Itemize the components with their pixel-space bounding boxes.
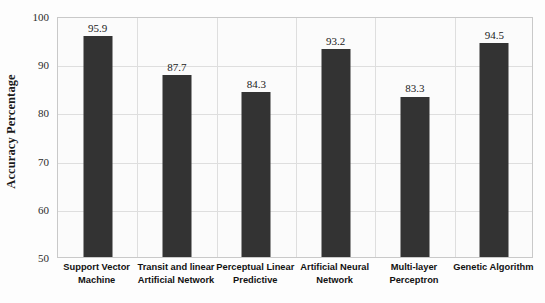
bar[interactable] [400, 97, 429, 258]
x-axis-label-1: Support VectorMachine [53, 261, 140, 286]
x-axis-label-line: Multi-layer [370, 261, 457, 274]
bar-chart: Accuracy Percentage 5060708090100 95.987… [0, 0, 545, 303]
y-axis-tick-90: 90 [38, 59, 49, 71]
bar[interactable] [162, 75, 191, 257]
y-axis-title: Accuracy Percentage [0, 0, 22, 262]
x-axis-label-3: Perceptual LinearPredictive [212, 261, 299, 286]
y-axis-tick-60: 60 [38, 204, 49, 216]
bar-value-label: 95.9 [88, 22, 107, 34]
x-axis-label-line: Network [291, 274, 378, 287]
x-axis-label-6: Genetic Algorithm [450, 261, 537, 274]
bar-slot: 84.3 [217, 18, 296, 257]
x-axis-label-line: Support Vector [53, 261, 140, 274]
x-axis-label-4: Artificial NeuralNetwork [291, 261, 378, 286]
x-axis-label-line: Perceptron [370, 274, 457, 287]
x-axis-label-line: Transit and linear [132, 261, 219, 274]
bar[interactable] [242, 92, 271, 257]
x-axis-label-line: Genetic Algorithm [450, 261, 537, 274]
x-axis-label-2: Transit and linearArtificial Network [132, 261, 219, 286]
y-axis-tick-100: 100 [33, 11, 50, 23]
bar-slot: 94.5 [455, 18, 534, 257]
bar-slot: 83.3 [375, 18, 454, 257]
bar-value-label: 87.7 [167, 61, 186, 73]
bar[interactable] [83, 36, 112, 257]
plot-area: 95.987.784.393.283.394.5 [57, 17, 533, 258]
bar-value-label: 94.5 [485, 29, 504, 41]
x-axis-label-5: Multi-layerPerceptron [370, 261, 457, 286]
x-axis-label-line: Artificial Network [132, 274, 219, 287]
bar-value-label: 93.2 [326, 35, 345, 47]
y-axis-tick-50: 50 [38, 252, 49, 264]
bar[interactable] [321, 49, 350, 257]
x-axis-label-line: Predictive [212, 274, 299, 287]
y-axis-tick-70: 70 [38, 156, 49, 168]
bar-slot: 87.7 [137, 18, 216, 257]
x-axis-label-line: Machine [53, 274, 140, 287]
x-axis-category-labels: Support VectorMachineTransit and linearA… [57, 261, 533, 301]
bar-slot: 95.9 [58, 18, 137, 257]
x-axis-label-line: Artificial Neural [291, 261, 378, 274]
bar-value-label: 84.3 [247, 78, 266, 90]
bar-value-label: 83.3 [405, 82, 424, 94]
y-axis-title-text: Accuracy Percentage [4, 74, 19, 188]
x-axis-label-line: Perceptual Linear [212, 261, 299, 274]
y-axis-tick-80: 80 [38, 107, 49, 119]
bar-slot: 93.2 [296, 18, 375, 257]
y-axis-tick-labels: 5060708090100 [22, 17, 54, 258]
bar[interactable] [480, 43, 509, 257]
